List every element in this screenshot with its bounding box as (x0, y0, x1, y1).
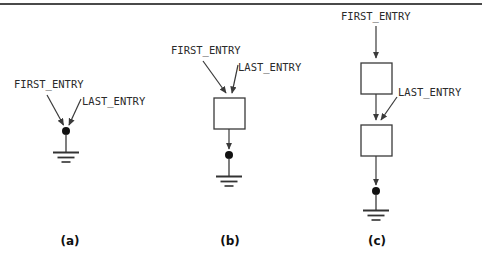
panel-b-first-entry-label: FIRST_ENTRY (171, 44, 241, 56)
first-entry-arrow-b (203, 61, 226, 93)
panel-c-last-entry-label: LAST_ENTRY (398, 86, 461, 98)
panel-c-caption: (c) (363, 234, 391, 248)
junction-dot-c (372, 187, 380, 195)
node-box-c-1 (361, 63, 392, 94)
panel-b-caption: (b) (216, 234, 244, 248)
panel-a-caption: (a) (56, 234, 84, 248)
diagram-vector-layer (0, 0, 482, 266)
first-entry-arrow-a (47, 95, 64, 125)
panel-c-graphics (361, 26, 397, 220)
panel-a-first-entry-label: FIRST_ENTRY (14, 78, 84, 90)
last-entry-arrow-a (69, 99, 81, 125)
panel-c-first-entry-label: FIRST_ENTRY (341, 10, 411, 22)
last-entry-arrow-c (381, 97, 397, 120)
panel-b-last-entry-label: LAST_ENTRY (238, 61, 301, 73)
junction-dot-a (62, 127, 70, 135)
node-box-c-2 (361, 125, 392, 156)
node-box-b-1 (214, 98, 245, 129)
panel-a-last-entry-label: LAST_ENTRY (82, 95, 145, 107)
panel-b-graphics (203, 61, 245, 186)
figure-container: FIRST_ENTRY LAST_ENTRY (a) FIRST_ENTRY L… (0, 0, 482, 266)
panel-a-graphics (47, 95, 81, 162)
junction-dot-b (225, 151, 233, 159)
